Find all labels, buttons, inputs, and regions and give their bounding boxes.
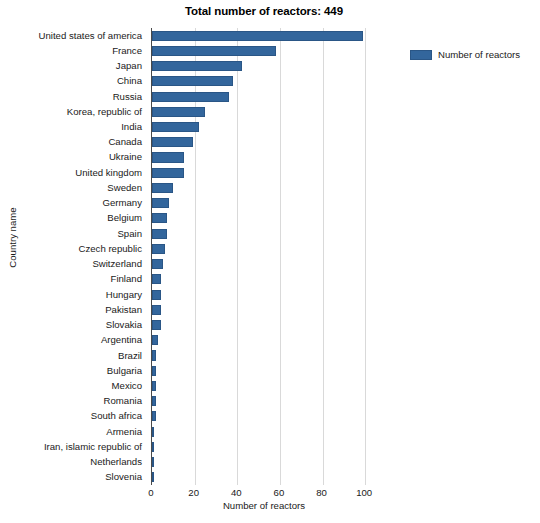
bar xyxy=(152,92,229,102)
bar xyxy=(152,472,154,482)
bar xyxy=(152,396,156,406)
bar xyxy=(152,61,242,71)
bar xyxy=(152,122,199,132)
legend-swatch-number-of-reactors xyxy=(410,50,432,60)
y-tick-label: South africa xyxy=(91,411,142,421)
x-tick-label: 40 xyxy=(231,487,242,498)
y-tick-label: Japan xyxy=(116,61,142,71)
bar xyxy=(152,137,193,147)
y-tick-label: Spain xyxy=(117,229,142,239)
bar xyxy=(152,183,173,193)
bar xyxy=(152,350,156,360)
bar xyxy=(152,381,156,391)
y-tick-label: Russia xyxy=(113,92,142,102)
bar xyxy=(152,411,156,421)
y-tick-label: Sweden xyxy=(107,183,142,193)
y-tick-label: Bulgaria xyxy=(107,366,142,376)
y-tick-label: China xyxy=(117,76,142,86)
y-tick-label: Germany xyxy=(103,198,142,208)
bar-chart-figure: Total number of reactors: 449 Country na… xyxy=(0,0,540,523)
y-tick-label: Romania xyxy=(104,396,142,406)
bar xyxy=(152,274,161,284)
y-tick-label: Argentina xyxy=(101,335,142,345)
bar xyxy=(152,457,154,467)
bar xyxy=(152,229,167,239)
y-tick-label: Belgium xyxy=(107,213,142,223)
plot-area xyxy=(151,28,378,485)
bar-series xyxy=(152,28,378,485)
y-tick-label: United kingdom xyxy=(75,168,142,178)
x-tick-label: 100 xyxy=(356,487,372,498)
y-tick-label: Mexico xyxy=(112,381,142,391)
y-tick-label: Ukraine xyxy=(109,152,142,162)
bar xyxy=(152,320,161,330)
y-tick-label: France xyxy=(112,46,142,56)
legend: Number of reactors xyxy=(410,49,520,60)
chart-title: Total number of reactors: 449 xyxy=(148,5,380,17)
bar xyxy=(152,107,205,117)
y-tick-label: Canada xyxy=(108,137,142,147)
y-axis-tick-labels: United states of americaFranceJapanChina… xyxy=(0,28,146,485)
bar xyxy=(152,335,158,345)
y-tick-label: Netherlands xyxy=(90,457,142,467)
y-tick-label: Brazil xyxy=(118,351,142,361)
bar xyxy=(152,305,161,315)
x-tick-label: 20 xyxy=(188,487,199,498)
bar xyxy=(152,46,276,56)
bar xyxy=(152,31,363,41)
x-tick-label: 0 xyxy=(148,487,153,498)
bar xyxy=(152,244,165,254)
y-tick-label: Korea, republic of xyxy=(67,107,142,117)
y-tick-label: Czech republic xyxy=(79,244,142,254)
x-tick-label: 80 xyxy=(316,487,327,498)
y-tick-label: Slovenia xyxy=(105,472,142,482)
y-tick-label: Finland xyxy=(111,274,142,284)
bar xyxy=(152,213,167,223)
legend-label-number-of-reactors: Number of reactors xyxy=(438,49,520,60)
y-tick-label: India xyxy=(121,122,142,132)
y-tick-label: United states of america xyxy=(39,31,142,41)
bar xyxy=(152,290,161,300)
y-tick-label: Hungary xyxy=(106,290,142,300)
bar xyxy=(152,427,154,437)
bar xyxy=(152,259,163,269)
y-tick-label: Pakistan xyxy=(105,305,142,315)
x-tick-label: 60 xyxy=(274,487,285,498)
x-axis-tick-labels: 020406080100 xyxy=(151,487,377,501)
bar xyxy=(152,442,154,452)
bar xyxy=(152,152,184,162)
y-tick-label: Slovakia xyxy=(106,320,142,330)
y-tick-label: Iran, islamic republic of xyxy=(44,442,142,452)
y-tick-label: Armenia xyxy=(106,427,142,437)
bar xyxy=(152,76,233,86)
x-axis-title: Number of reactors xyxy=(151,500,377,511)
bar xyxy=(152,198,169,208)
y-tick-label: Switzerland xyxy=(92,259,142,269)
bar xyxy=(152,168,184,178)
bar xyxy=(152,366,156,376)
